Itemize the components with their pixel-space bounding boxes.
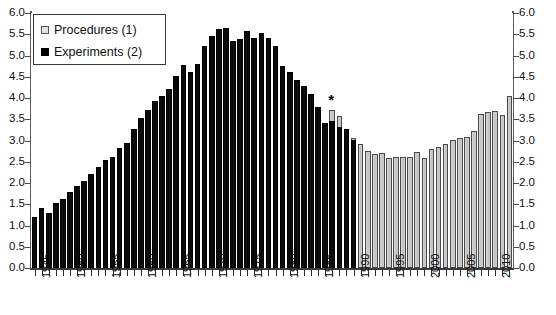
bar-experiments-1980 xyxy=(280,66,286,268)
x-axis-tick-mark xyxy=(219,270,220,276)
x-axis-tick-mark xyxy=(261,270,262,276)
bar-experiments-1983 xyxy=(301,86,307,268)
x-axis-tick-mark xyxy=(375,270,376,276)
legend-label-experiments: Experiments (2) xyxy=(54,46,142,59)
x-axis-tick-mark xyxy=(162,270,163,276)
bar-procedures-2000 xyxy=(422,158,428,269)
bar-procedures-1994 xyxy=(379,153,385,268)
legend-item-procedures: Procedures (1) xyxy=(41,19,160,41)
x-axis-tick-mark xyxy=(396,270,397,276)
x-axis-tick-mark xyxy=(254,270,255,276)
x-axis-tick-mark xyxy=(325,270,326,276)
x-axis-tick-mark xyxy=(70,270,71,276)
y-axis-left-tick-label: 2.0 xyxy=(9,177,25,188)
bar-experiments-1971 xyxy=(216,29,222,268)
x-axis-tick-mark xyxy=(290,270,291,276)
y-axis-right-tick-mark xyxy=(513,77,519,78)
x-axis-tick-mark xyxy=(63,270,64,276)
x-axis-tick-mark xyxy=(148,270,149,276)
x-axis-tick-mark xyxy=(190,270,191,276)
y-axis-right-tick-mark xyxy=(513,98,519,99)
y-axis-right-tick-label: 5.5 xyxy=(519,28,535,39)
bar-experiments-1976 xyxy=(251,38,257,268)
bar-experiments-1957 xyxy=(117,148,123,268)
bar-experiments-1973 xyxy=(230,41,236,268)
x-axis-tick-mark xyxy=(155,270,156,276)
y-axis-right-tick-mark xyxy=(513,268,519,269)
x-axis-tick-mark xyxy=(49,270,50,276)
x-axis-tick-mark xyxy=(502,270,503,276)
y-axis-right-tick-label: 6.0 xyxy=(519,7,535,18)
x-axis-tick-mark xyxy=(311,270,312,276)
bar-procedures-2004 xyxy=(450,140,456,268)
y-axis-right-tick-mark xyxy=(513,56,519,57)
bar-experiments-1985 xyxy=(315,107,321,268)
x-axis-tick-mark xyxy=(198,270,199,276)
bar-procedures-2011 xyxy=(500,115,506,268)
bar-procedures-2008 xyxy=(478,114,484,268)
bar-chart: 0.00.51.01.52.02.53.03.54.04.55.05.56.0 … xyxy=(0,0,556,315)
bar-procedures-2012 xyxy=(507,96,513,268)
bar-experiments-1962 xyxy=(152,101,158,268)
bar-experiments-1986 xyxy=(322,123,328,268)
bar-experiments-1960 xyxy=(138,118,144,268)
bar-experiments-1981 xyxy=(287,72,293,268)
bar-procedures-2010 xyxy=(492,111,498,268)
x-axis-tick-mark xyxy=(120,270,121,276)
bar-procedures-2006 xyxy=(464,137,470,268)
y-axis-right-tick-label: 2.5 xyxy=(519,156,535,167)
x-axis-tick-mark xyxy=(77,270,78,276)
legend-square-light-icon xyxy=(41,26,49,34)
y-axis-right-tick-mark xyxy=(513,119,519,120)
y-axis-right-tick-mark xyxy=(513,141,519,142)
x-axis-tick-mark xyxy=(332,270,333,276)
bar-experiments-1965 xyxy=(173,76,179,268)
bar-procedures-2007 xyxy=(471,131,477,268)
bar-procedures-2009 xyxy=(485,112,491,268)
bar-experiments-1972 xyxy=(223,28,229,268)
bar-procedures-1999 xyxy=(414,152,420,268)
y-axis-right-tick-mark xyxy=(513,34,519,35)
bar-experiments-1961 xyxy=(145,110,151,268)
x-axis-tick-mark xyxy=(226,270,227,276)
x-axis-tick-mark xyxy=(382,270,383,276)
bar-procedures-1996 xyxy=(393,157,399,268)
bar-experiments-1988 xyxy=(337,127,343,268)
bar-procedures-1995 xyxy=(386,158,392,269)
y-axis-right-tick-label: 1.5 xyxy=(519,198,535,209)
x-axis-tick-mark xyxy=(247,270,248,276)
x-axis-tick-mark xyxy=(361,270,362,276)
x-axis-tick-mark xyxy=(169,270,170,276)
bar-experiments-1953 xyxy=(88,174,94,268)
bar-experiments-1978 xyxy=(266,38,272,268)
x-axis-tick-mark xyxy=(439,270,440,276)
legend-label-procedures: Procedures (1) xyxy=(54,24,137,37)
bar-experiments-1982 xyxy=(294,80,300,268)
x-axis-tick-mark xyxy=(346,270,347,276)
bar-experiments-1945 xyxy=(32,217,38,268)
y-axis-left-tick-label: 4.0 xyxy=(9,92,25,103)
bar-experiments-1970 xyxy=(209,36,215,268)
y-axis-left-tick-label: 3.5 xyxy=(9,113,25,124)
y-axis-right-tick-label: 2.0 xyxy=(519,177,535,188)
x-axis-tick-mark xyxy=(205,270,206,276)
y-axis-right-tick-mark xyxy=(513,13,519,14)
bar-experiments-1948 xyxy=(53,203,59,268)
bar-experiments-1968 xyxy=(195,64,201,268)
x-axis-tick-mark xyxy=(183,270,184,276)
x-axis-tick-mark xyxy=(453,270,454,276)
bar-experiments-1975 xyxy=(244,31,250,268)
x-axis-tick-mark xyxy=(141,270,142,276)
bar-experiments-1984 xyxy=(308,94,314,268)
x-axis-tick-mark xyxy=(354,270,355,276)
y-axis-right-tick-label: 4.0 xyxy=(519,92,535,103)
y-axis-left-tick-label: 1.0 xyxy=(9,220,25,231)
x-axis-tick-mark xyxy=(417,270,418,276)
x-axis-tick-mark xyxy=(283,270,284,276)
bar-experiments-1989 xyxy=(344,129,350,268)
y-axis-left-tick-label: 1.5 xyxy=(9,198,25,209)
bar-procedures-1991 xyxy=(358,144,364,268)
chart-legend: Procedures (1) Experiments (2) xyxy=(33,14,166,65)
bar-experiments-1950 xyxy=(67,192,73,268)
y-axis-left-tick-label: 4.5 xyxy=(9,71,25,82)
